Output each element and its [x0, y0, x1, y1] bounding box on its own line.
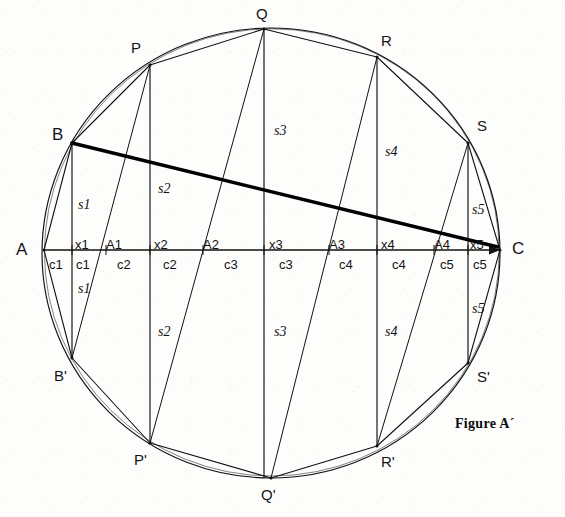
figure-canvas: ABB'PP'QQ'RR'SS'C x1x2x3x4x5 A1A2A3A4 c1… [0, 0, 565, 517]
vertex-label-B: B [52, 126, 63, 143]
vertex-label-C: C [512, 240, 524, 257]
a-label-3: A3 [329, 238, 345, 251]
figure-caption: Figure A´ [455, 417, 515, 431]
a-label-4: A4 [434, 238, 450, 251]
x-label-2: x2 [154, 238, 168, 251]
s-label-6: s3 [274, 325, 286, 339]
s-label-9: s5 [472, 203, 484, 217]
vertex-dot-Pp [149, 442, 152, 445]
s-label-3: s2 [158, 182, 170, 196]
vertex-label-Bp: B' [54, 368, 67, 383]
vertex-label-Q: Q [256, 6, 268, 21]
vertex-dot-P [149, 64, 152, 67]
s-label-1: s1 [78, 198, 90, 212]
lower-chord-chain [44, 250, 500, 478]
inscribed-polygon-group [44, 29, 500, 478]
oblique-chords-group [72, 29, 468, 478]
s-label-5: s3 [274, 124, 286, 138]
vertex-label-Qp: Q' [261, 487, 276, 502]
a-label-2: A2 [203, 238, 219, 251]
x-label-1: x1 [75, 238, 89, 251]
vertex-dot-Bp [71, 357, 74, 360]
vertex-label-Pp: P' [134, 452, 147, 467]
oblique-chord-4 [377, 143, 468, 446]
vertex-dot-Qp [270, 477, 273, 480]
vertex-dot-Q [263, 28, 266, 31]
vertex-dot-A [43, 249, 46, 252]
vertex-label-S: S [477, 118, 487, 133]
vertex-label-A: A [16, 241, 27, 258]
c-label-2: c1 [76, 258, 90, 271]
c-label-6: c3 [279, 258, 293, 271]
s-label-8: s4 [385, 325, 397, 339]
x-label-5: x5 [470, 238, 484, 251]
a-label-1: A1 [106, 238, 122, 251]
s-label-2: s1 [78, 282, 90, 296]
circle-outline-inner [44, 29, 499, 476]
vertex-dot-S [467, 142, 470, 145]
thick-chord-group [72, 143, 498, 247]
c-label-9: c5 [440, 258, 454, 271]
x-label-3: x3 [269, 238, 283, 251]
vertex-dot-B [71, 142, 74, 145]
vertex-label-P: P [131, 40, 141, 55]
c-label-5: c3 [224, 258, 238, 271]
oblique-chord-2 [150, 29, 264, 443]
upper-chord-chain [44, 29, 500, 250]
s-label-10: s5 [472, 302, 484, 316]
vertex-label-Rp: R' [381, 454, 395, 469]
vertex-label-Sp: S' [477, 369, 490, 384]
vertical-chords-group [72, 29, 468, 478]
c-label-10: c5 [473, 258, 487, 271]
vertex-dot-Rp [376, 445, 379, 448]
vertex-label-R: R [381, 33, 392, 48]
thick-chord-BC [72, 143, 498, 247]
vertex-dot-C [499, 249, 502, 252]
s-label-7: s4 [385, 145, 397, 159]
c-label-8: c4 [392, 258, 406, 271]
outer-circle-group [42, 28, 500, 478]
x-label-4: x4 [381, 238, 395, 251]
vertex-dot-R [376, 56, 379, 59]
c-label-3: c2 [117, 258, 131, 271]
c-label-7: c4 [339, 258, 353, 271]
vertex-dot-Sp [467, 362, 470, 365]
c-label-1: c1 [49, 258, 63, 271]
s-label-4: s2 [158, 325, 170, 339]
c-label-4: c2 [163, 258, 177, 271]
